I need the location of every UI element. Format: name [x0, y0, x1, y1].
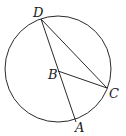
label-D: D — [32, 5, 44, 20]
circle-diagram: D B C A — [0, 0, 126, 136]
label-B: B — [47, 67, 58, 82]
label-C: C — [109, 86, 119, 101]
segment-DA — [41, 19, 76, 122]
label-A: A — [74, 120, 84, 135]
segment-BC — [58, 71, 107, 88]
